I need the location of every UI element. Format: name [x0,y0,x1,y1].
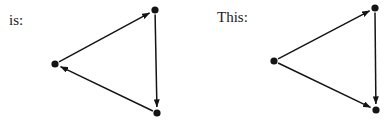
right-graph-edge-B-to-C [375,13,376,104]
right-graph-edge-A-to-B [278,11,370,59]
right-graph-node-A [270,57,277,64]
right-graph-edge-A-to-C [278,63,370,107]
left-graph-edge-B-to-C [155,15,157,107]
left-graph-edge-A-to-B [59,13,150,62]
left-graph-node-B [151,6,158,13]
left-graph-node-A [51,60,58,67]
directed-graphs-canvas [0,0,390,122]
right-graph-node-B [371,4,378,11]
left-graph-node-C [153,109,160,116]
left-graph-edge-C-to-A [61,67,153,111]
nodes-layer [51,4,379,116]
edges-layer [59,11,376,111]
right-graph-node-C [372,106,379,113]
